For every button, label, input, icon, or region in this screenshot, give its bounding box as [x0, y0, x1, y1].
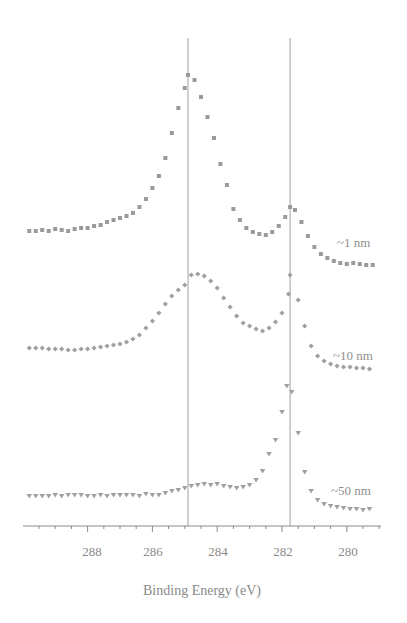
- data-point: [332, 259, 336, 263]
- data-point: [247, 483, 253, 488]
- data-point: [334, 363, 339, 368]
- series-10nm: [27, 271, 372, 371]
- data-point: [40, 345, 45, 350]
- data-point: [182, 282, 187, 287]
- series-50nm: [26, 384, 372, 513]
- data-point: [73, 227, 77, 231]
- data-point: [279, 310, 284, 315]
- data-point: [66, 347, 71, 352]
- data-point: [170, 131, 174, 135]
- data-point: [253, 326, 258, 331]
- data-point: [26, 494, 32, 499]
- data-point: [221, 484, 227, 489]
- data-point: [98, 493, 104, 498]
- data-point: [279, 410, 285, 415]
- data-point: [328, 504, 334, 509]
- data-point: [315, 498, 321, 503]
- data-point: [322, 358, 327, 363]
- data-point: [354, 507, 360, 512]
- data-point: [309, 343, 314, 348]
- tick-label-282: 282: [273, 544, 293, 559]
- data-point: [150, 493, 156, 498]
- data-point: [163, 301, 168, 306]
- data-point: [99, 223, 103, 227]
- data-point: [266, 325, 271, 330]
- data-point: [53, 346, 58, 351]
- data-point: [306, 234, 310, 238]
- data-point: [157, 174, 161, 178]
- data-point: [182, 486, 188, 491]
- data-point: [176, 287, 181, 292]
- data-point: [208, 483, 214, 488]
- data-point: [79, 226, 83, 230]
- data-point: [195, 271, 200, 276]
- data-point: [247, 323, 252, 328]
- tick-label-284: 284: [208, 544, 228, 559]
- data-point: [351, 261, 355, 265]
- data-point: [156, 310, 161, 315]
- data-point: [293, 208, 297, 212]
- data-point: [193, 78, 197, 82]
- data-point: [150, 318, 155, 323]
- data-point: [199, 95, 203, 99]
- data-point: [212, 136, 216, 140]
- data-point: [234, 486, 240, 491]
- data-point: [117, 493, 123, 498]
- data-point: [354, 365, 359, 370]
- data-point: [85, 346, 90, 351]
- data-point: [273, 319, 278, 324]
- data-point: [112, 218, 116, 222]
- data-point: [92, 224, 96, 228]
- data-point: [201, 482, 207, 487]
- data-point: [163, 491, 169, 496]
- series-label-50nm: ~50 nm: [331, 483, 371, 498]
- series-1nm: [27, 73, 374, 267]
- data-point: [227, 485, 233, 490]
- data-point: [360, 508, 366, 513]
- data-point: [228, 304, 233, 309]
- data-point: [104, 494, 110, 499]
- data-point: [260, 469, 266, 474]
- data-point: [169, 293, 174, 298]
- data-point: [202, 273, 207, 278]
- data-point: [251, 230, 255, 234]
- data-point: [238, 218, 242, 222]
- data-point: [253, 478, 259, 483]
- data-point: [334, 505, 340, 510]
- tick-label-288: 288: [82, 544, 102, 559]
- data-point: [118, 216, 122, 220]
- data-point: [183, 86, 187, 90]
- data-point: [367, 366, 372, 371]
- data-point: [40, 228, 44, 232]
- data-point: [347, 364, 352, 369]
- data-point: [295, 431, 301, 436]
- data-point: [218, 162, 222, 166]
- data-point: [169, 489, 175, 494]
- data-point: [131, 211, 135, 215]
- reference-lines: [188, 38, 290, 526]
- data-point: [46, 494, 52, 499]
- data-point: [288, 205, 292, 209]
- data-point: [27, 229, 31, 233]
- series-label-10nm: ~10 nm: [333, 348, 373, 363]
- x-axis-title: Binding Energy (eV): [143, 583, 261, 599]
- x-axis: 288 286 284 282 280 Binding Energy (eV): [23, 526, 381, 599]
- data-point: [189, 272, 194, 277]
- data-point: [360, 365, 365, 370]
- data-point: [325, 256, 329, 260]
- data-point: [91, 345, 96, 350]
- data-point: [143, 492, 149, 497]
- data-point: [266, 452, 272, 457]
- data-point: [234, 313, 239, 318]
- tick-label-280: 280: [338, 544, 358, 559]
- data-point: [270, 230, 274, 234]
- data-point: [319, 252, 323, 256]
- data-point: [195, 483, 201, 488]
- data-point: [240, 485, 246, 490]
- data-point: [65, 493, 71, 498]
- data-point: [79, 346, 84, 351]
- data-point: [296, 297, 301, 302]
- data-point: [117, 341, 122, 346]
- data-point: [215, 285, 220, 290]
- data-point: [60, 228, 64, 232]
